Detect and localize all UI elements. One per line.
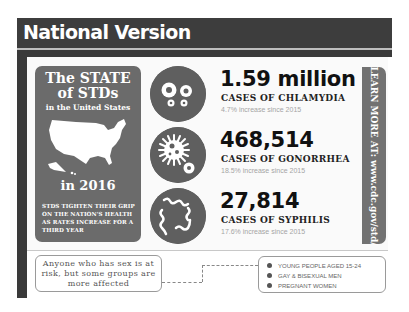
syphilis-bacteria-icon: [150, 188, 206, 244]
stat-increase: 4.7% increase since 2015: [221, 106, 301, 113]
gonorrhea-bacteria-icon: [150, 127, 206, 183]
stat-increase: 17.6% increase since 2015: [221, 228, 305, 235]
stat-value: 1.59 million: [220, 67, 356, 91]
stat-value: 468,514: [220, 128, 314, 152]
risk-callout: Anyone who has sex is at risk, but some …: [35, 255, 162, 292]
chlamydia-bacteria-icon: [150, 66, 206, 122]
stat-chlamydia: 1.59 million CASES OF CHLAMYDIA 4.7% inc…: [150, 66, 360, 126]
infographic-frame-top: [17, 50, 392, 57]
group-item: YOUNG PEOPLE AGED 15-24: [267, 261, 385, 271]
group-item: GAY & BISEXUAL MEN: [267, 271, 385, 281]
group-label: PREGNANT WOMEN: [278, 283, 337, 289]
stat-syphilis: 27,814 CASES OF SYPHILIS 17.6% increase …: [150, 188, 360, 248]
stat-increase: 18.5% increase since 2015: [221, 167, 305, 174]
group-label: YOUNG PEOPLE AGED 15-24: [278, 263, 361, 269]
state-subtitle: in the United States: [35, 103, 141, 112]
state-title-line1: The STATE: [35, 71, 141, 86]
state-of-stds-box: The STATE of STDs in the United States i…: [35, 66, 141, 242]
bullet-icon: [267, 273, 272, 278]
connector-line: [202, 265, 258, 266]
stat-value: 27,814: [220, 189, 299, 213]
state-year: in 2016: [35, 178, 141, 193]
stat-label: CASES OF GONORRHEA: [221, 154, 350, 164]
learn-more-bar[interactable]: LEARN MORE AT: www.cdc.gov/std/: [362, 67, 386, 244]
affected-groups-box: YOUNG PEOPLE AGED 15-24 GAY & BISEXUAL M…: [258, 256, 386, 293]
page-title: National Version: [23, 21, 191, 43]
state-title-line2: of STDs: [35, 86, 141, 101]
bullet-icon: [267, 283, 272, 288]
bullet-icon: [267, 263, 272, 268]
us-map-icon: [46, 116, 130, 178]
stat-label: CASES OF SYPHILIS: [221, 215, 330, 225]
infographic-frame-left: [17, 50, 27, 298]
stat-label: CASES OF CHLAMYDIA: [221, 93, 345, 103]
connector-line: [202, 265, 203, 282]
connector-line: [162, 282, 202, 283]
state-note: STDS TIGHTEN THEIR GRIP ON THE NATION'S …: [42, 202, 136, 234]
group-item: PREGNANT WOMEN: [267, 281, 385, 291]
group-label: GAY & BISEXUAL MEN: [278, 273, 342, 279]
learn-more-link[interactable]: LEARN MORE AT: www.cdc.gov/std/: [369, 67, 379, 244]
page-header: National Version: [17, 18, 392, 48]
stat-gonorrhea: 468,514 CASES OF GONORRHEA 18.5% increas…: [150, 127, 360, 187]
